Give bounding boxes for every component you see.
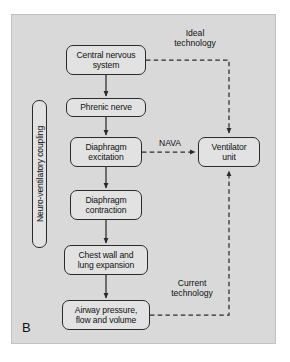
node-ventilator-unit: Ventilator unit <box>198 137 260 167</box>
bracket-neuro-ventilatory-coupling: Neuro-ventilatory coupling <box>32 100 47 248</box>
node-chest-wall-lung-expansion: Chest wall and lung expansion <box>64 245 148 275</box>
edge-label-nava: NAVA <box>148 138 192 148</box>
bracket-label: Neuro-ventilatory coupling <box>35 126 45 222</box>
node-phrenic-nerve: Phrenic nerve <box>66 98 146 117</box>
panel-letter-b: B <box>22 320 31 335</box>
node-central-nervous-system: Central nervous system <box>66 45 146 75</box>
edge-label-ideal-technology: Ideal technology <box>158 28 232 48</box>
node-airway-pressure-flow-volume: Airway pressure, flow and volume <box>62 300 150 330</box>
dashed-edge-group <box>142 60 229 315</box>
edge-cns-to-ventilator-ideal <box>146 60 229 133</box>
edge-label-current-technology: Current technology <box>155 278 229 298</box>
node-diaphragm-contraction: Diaphragm contraction <box>70 190 142 220</box>
figure-panel-b: Central nervous system Phrenic nerve Dia… <box>0 0 290 362</box>
node-diaphragm-excitation: Diaphragm excitation <box>70 137 142 167</box>
